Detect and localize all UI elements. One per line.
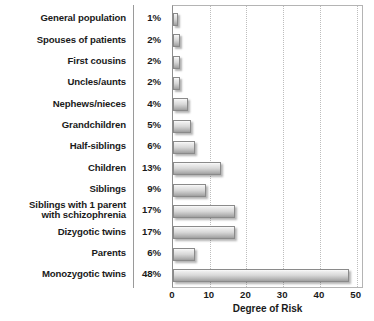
plot-area <box>172 5 363 288</box>
category-label-text: First cousins <box>68 56 126 66</box>
category-label: Half-siblings <box>0 136 131 158</box>
category-label-text: Grandchildren <box>62 120 126 130</box>
category-label-column: General populationSpouses of patientsFir… <box>0 8 131 290</box>
value-label: 2% <box>137 72 167 94</box>
bar <box>173 248 195 261</box>
bar <box>173 184 206 197</box>
category-label-text: Half-siblings <box>70 141 126 151</box>
category-label-text: Siblings <box>89 184 126 194</box>
x-axis-title: Degree of Risk <box>172 303 363 314</box>
value-label-column: 1%2%2%2%4%5%6%13%9%17%17%6%48% <box>137 8 167 290</box>
bar <box>173 141 195 154</box>
category-label-text: Parents <box>92 248 127 258</box>
value-label: 4% <box>137 93 167 115</box>
category-label: Parents <box>0 242 131 264</box>
value-label: 17% <box>137 200 167 222</box>
value-label: 6% <box>137 136 167 158</box>
label-value-divider <box>133 5 134 288</box>
value-label: 1% <box>137 8 167 30</box>
value-label: 9% <box>137 178 167 200</box>
category-label: First cousins <box>0 50 131 72</box>
risk-bar-chart: General populationSpouses of patientsFir… <box>0 0 374 321</box>
category-label: Monozygotic twins <box>0 263 131 285</box>
x-tick-label-50: 50 <box>350 289 361 300</box>
category-label-text: Siblings with 1 parentwith schizophrenia <box>29 200 126 222</box>
bar <box>173 120 191 133</box>
value-label: 2% <box>137 29 167 51</box>
category-label-text: General population <box>40 13 126 23</box>
bar <box>173 13 178 26</box>
x-tick-label-0: 0 <box>169 289 174 300</box>
bar <box>173 269 349 282</box>
x-tick-label-40: 40 <box>314 289 325 300</box>
category-label-text: Children <box>88 163 126 173</box>
bar <box>173 56 180 69</box>
category-label-text: Uncles/aunts <box>67 77 126 87</box>
bar <box>173 226 235 239</box>
category-label: Spouses of patients <box>0 29 131 51</box>
value-label: 48% <box>137 263 167 285</box>
category-label-text: Dizygotic twins <box>58 227 126 237</box>
category-label-text: Monozygotic twins <box>42 269 126 279</box>
category-label: Uncles/aunts <box>0 72 131 94</box>
category-label: Dizygotic twins <box>0 221 131 243</box>
x-tick-label-10: 10 <box>203 289 214 300</box>
category-label-text: Nephews/nieces <box>53 99 126 109</box>
x-tick-label-20: 20 <box>240 289 251 300</box>
value-label: 6% <box>137 242 167 264</box>
bar <box>173 98 188 111</box>
bars-layer <box>173 6 362 287</box>
bar <box>173 77 180 90</box>
value-label: 13% <box>137 157 167 179</box>
category-label: Nephews/nieces <box>0 93 131 115</box>
category-label-text: Spouses of patients <box>37 35 126 45</box>
category-label: Grandchildren <box>0 114 131 136</box>
category-label: Children <box>0 157 131 179</box>
bar <box>173 162 221 175</box>
value-label: 5% <box>137 114 167 136</box>
bar <box>173 205 235 218</box>
value-label: 2% <box>137 50 167 72</box>
value-label: 17% <box>137 221 167 243</box>
x-tick-label-30: 30 <box>277 289 288 300</box>
bar <box>173 34 180 47</box>
category-label: General population <box>0 8 131 30</box>
